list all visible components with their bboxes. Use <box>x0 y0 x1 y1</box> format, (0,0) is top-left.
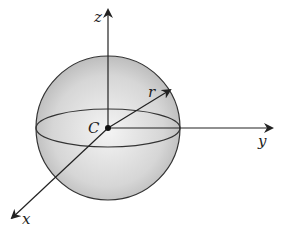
radius-label: r <box>148 83 156 101</box>
x-axis-label: x <box>22 210 31 228</box>
z-axis-label: z <box>93 8 102 26</box>
sphere-diagram: z y x r C <box>0 0 286 239</box>
y-axis-label: y <box>257 132 267 150</box>
center-point <box>105 125 111 131</box>
center-label: C <box>88 119 100 137</box>
